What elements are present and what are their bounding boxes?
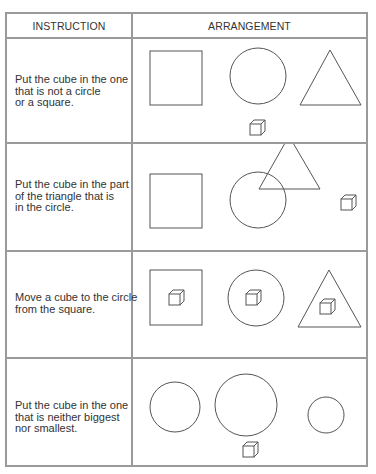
circle-shape (230, 172, 286, 228)
instruction-row-1: Put the cube in the one that is not a ci… (15, 74, 128, 109)
instruction-row-2: Put the cube in the part of the triangle… (15, 179, 129, 214)
cube-icon (246, 290, 261, 305)
cube-icon (243, 442, 258, 457)
circle-shape (228, 270, 284, 326)
cube-icon (320, 299, 335, 314)
small-circle-shape (308, 397, 344, 433)
arrangement-row-3 (133, 252, 366, 357)
instruction-row-3: Move a cube to the circle from the squar… (15, 292, 137, 315)
arrangement-row-2 (133, 144, 366, 250)
square-shape (150, 51, 202, 105)
arrangement-row-1 (133, 39, 366, 142)
cube-icon (341, 195, 356, 210)
instruction-row-4: Put the cube in the one that is neither … (15, 400, 128, 435)
large-circle-shape (215, 374, 277, 436)
triangle-shape (300, 50, 361, 105)
triangle-shape (259, 144, 320, 189)
square-shape (150, 174, 202, 228)
medium-circle-shape (150, 382, 200, 432)
cube-icon (169, 290, 184, 305)
header-arrangement: ARRANGEMENT (133, 14, 366, 37)
header-instruction: INSTRUCTION (7, 14, 131, 37)
cube-icon (250, 120, 265, 135)
circle-shape (230, 48, 286, 104)
instruction-table: INSTRUCTION ARRANGEMENT Put the cube in … (5, 12, 368, 467)
arrangement-row-4 (133, 359, 366, 467)
square-shape (150, 270, 202, 325)
